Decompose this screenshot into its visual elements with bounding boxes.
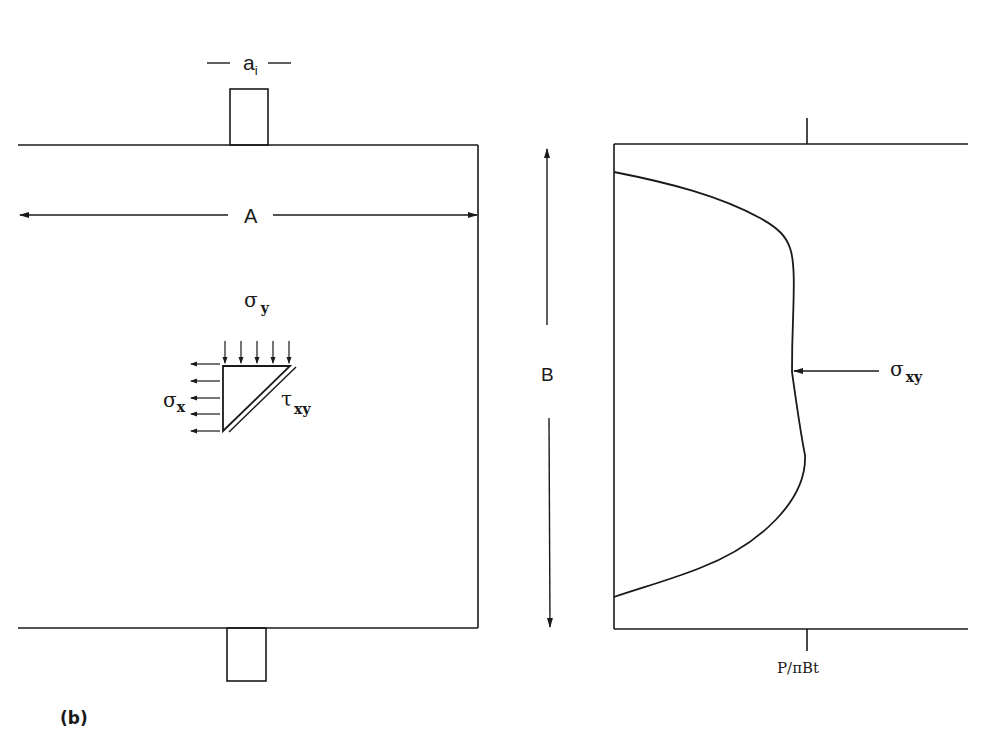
- stress-triangle: [223, 366, 290, 431]
- top-loading-block: [230, 89, 268, 145]
- sigma-x-label: σx: [163, 388, 186, 415]
- panel-label: (b): [60, 708, 88, 728]
- sigma-y-label: σy: [244, 288, 270, 316]
- load-label: P/πBt: [777, 659, 819, 677]
- left-specimen: [18, 89, 478, 681]
- width-label: A: [244, 205, 258, 227]
- sigma-y-arrows: [225, 341, 289, 363]
- sigma-xy-label: σxy: [890, 357, 923, 385]
- bottom-loading-block: [227, 628, 266, 681]
- tau-xy-label: τxy: [281, 387, 311, 417]
- height-label: B: [541, 364, 554, 385]
- sigma-x-arrows: [191, 364, 220, 431]
- height-dimension-arrow: [547, 149, 550, 627]
- stress-diagram: ai A σy σx τxy B σxy P/πBt (b): [0, 0, 983, 748]
- shear-stress-profile-curve: [614, 172, 805, 597]
- loading-width-label: ai: [243, 51, 258, 78]
